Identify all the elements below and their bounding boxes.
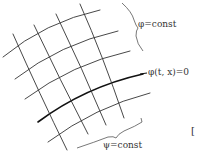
psi-curve (56, 14, 106, 125)
phi-curve (48, 93, 150, 142)
psi-curve (34, 25, 88, 134)
phi-zero-label: φ(t, x)=0 (148, 67, 189, 77)
phi-zero-pointer (140, 73, 147, 74)
psi-const-label: ψ=const (103, 140, 142, 150)
phi-const-label: φ=const (138, 19, 176, 29)
psi-curve (80, 4, 124, 118)
phi-zero-curve (38, 74, 143, 122)
phi-curve (25, 51, 130, 99)
bracket-mark: [ (191, 125, 195, 136)
